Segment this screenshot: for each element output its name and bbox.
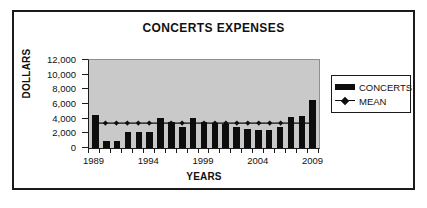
bar-slot — [307, 60, 318, 148]
x-axis-tick — [241, 148, 242, 153]
bar-slot — [264, 60, 275, 148]
bar-slot — [242, 60, 253, 148]
legend-item-concerts: CONCERTS — [335, 80, 406, 94]
x-axis-tick — [99, 148, 100, 153]
x-axis-tick — [132, 148, 133, 153]
y-axis-tick-label: 6,000 — [52, 98, 76, 109]
bar — [157, 118, 164, 148]
bar — [299, 116, 306, 148]
bar — [103, 141, 110, 148]
chart-container: CONCERTS EXPENSES DOLLARS 12,00010,0008,… — [12, 10, 415, 190]
x-axis-tick — [121, 148, 122, 153]
bar-slot — [275, 60, 286, 148]
x-axis-tick — [208, 148, 209, 153]
x-axis-tick — [165, 148, 166, 153]
bar-slot — [285, 60, 296, 148]
x-axis-tick — [88, 148, 89, 153]
bar — [233, 127, 240, 148]
x-axis-tick-label: 1999 — [192, 155, 213, 166]
bar — [222, 124, 229, 148]
x-axis-tick — [274, 148, 275, 153]
bar-slot — [133, 60, 144, 148]
bar — [266, 130, 273, 148]
x-axis-tick — [198, 148, 199, 153]
bar — [190, 118, 197, 148]
bar — [201, 122, 208, 148]
bar — [136, 132, 143, 148]
bar-slot — [155, 60, 166, 148]
y-axis-tick-label: 8,000 — [52, 83, 76, 94]
legend-item-mean: MEAN — [335, 94, 406, 108]
x-axis-tick — [318, 148, 319, 153]
bar — [277, 127, 284, 148]
line-marker-swatch-icon — [335, 94, 355, 108]
x-axis-tick — [187, 148, 188, 153]
y-axis-tick-label: 10,000 — [47, 68, 76, 79]
bar-slot — [112, 60, 123, 148]
bar-slot — [177, 60, 188, 148]
bar — [179, 127, 186, 148]
chart-title: CONCERTS EXPENSES — [14, 21, 413, 35]
x-axis-tick — [263, 148, 264, 153]
x-axis-tick — [307, 148, 308, 153]
y-axis-tick-label: 4,000 — [52, 112, 76, 123]
x-axis-ticks — [88, 148, 320, 154]
bar-slot — [144, 60, 155, 148]
bar-slot — [253, 60, 264, 148]
bar-series-concerts — [89, 60, 319, 148]
y-axis-tick-label: 12,000 — [47, 54, 76, 65]
y-axis-ticks — [74, 53, 88, 153]
x-axis-tick — [296, 148, 297, 153]
x-axis-tick — [285, 148, 286, 153]
bar — [255, 130, 262, 148]
x-axis-tick-labels: 19891994199920042009 — [80, 155, 328, 169]
bar-slot — [90, 60, 101, 148]
bar — [244, 129, 251, 148]
x-axis-title: YEARS — [88, 171, 320, 182]
bar — [125, 132, 132, 148]
bar — [92, 115, 99, 148]
x-axis-tick — [143, 148, 144, 153]
legend-label-mean: MEAN — [359, 96, 386, 107]
x-axis-tick-label: 1989 — [83, 155, 104, 166]
y-axis-tick-labels: 12,00010,0008,0006,0004,0002,0000 — [20, 53, 76, 153]
bar-slot — [231, 60, 242, 148]
plot-area — [88, 59, 320, 149]
chart-legend: CONCERTS MEAN — [331, 75, 411, 113]
bar — [212, 123, 219, 148]
x-axis-tick — [230, 148, 231, 153]
bar-swatch-icon — [335, 80, 355, 94]
bar — [309, 100, 316, 148]
bar — [146, 132, 153, 149]
x-axis-tick — [110, 148, 111, 153]
legend-label-concerts: CONCERTS — [359, 82, 412, 93]
bar-slot — [188, 60, 199, 148]
bar-slot — [220, 60, 231, 148]
x-axis-tick-label: 2004 — [247, 155, 268, 166]
bar — [114, 141, 121, 148]
bar-slot — [199, 60, 210, 148]
x-axis-tick-label: 2009 — [302, 155, 323, 166]
bar-slot — [209, 60, 220, 148]
bar — [288, 117, 295, 148]
x-axis-tick — [154, 148, 155, 153]
bar — [168, 122, 175, 148]
x-axis-tick-label: 1994 — [138, 155, 159, 166]
x-axis-tick — [252, 148, 253, 153]
x-axis-tick — [176, 148, 177, 153]
bar-slot — [296, 60, 307, 148]
y-axis-tick-label: 2,000 — [52, 127, 76, 138]
bar-slot — [123, 60, 134, 148]
x-axis-tick — [219, 148, 220, 153]
bar-slot — [101, 60, 112, 148]
bar-slot — [166, 60, 177, 148]
